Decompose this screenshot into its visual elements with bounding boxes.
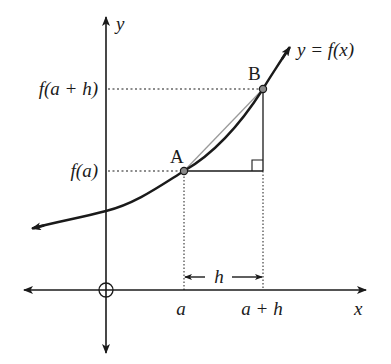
point-b-label: B (248, 63, 261, 84)
derivative-diagram: y x y = f(x) A B f(a + h) f(a) a a + h h (0, 0, 391, 364)
y-axis-label: y (114, 13, 125, 34)
interval-label: h (214, 266, 224, 287)
curve-arrow-up (282, 47, 290, 59)
curve-label: y = f(x) (295, 39, 354, 61)
point-b (259, 85, 266, 92)
y-tick-f-a: f(a) (71, 160, 98, 182)
x-tick-a-plus-h: a + h (241, 298, 282, 319)
point-a-label: A (170, 146, 184, 167)
right-angle-marker (252, 160, 263, 171)
secant-chord (184, 89, 263, 171)
x-axis-label: x (353, 298, 363, 319)
curve-arrow-left (32, 226, 44, 229)
x-tick-a: a (176, 298, 186, 319)
y-tick-f-a-plus-h: f(a + h) (39, 78, 98, 100)
point-a (180, 167, 187, 174)
